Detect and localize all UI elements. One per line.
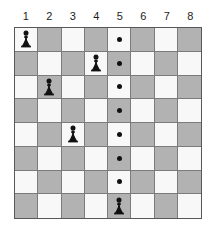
column-header-1: 1 [14,8,38,25]
board-cell-r6c2[interactable] [38,147,61,171]
column-header-3: 3 [61,8,85,25]
board-cell-r5c4[interactable] [85,123,108,147]
board-cell-r7c1[interactable] [15,171,38,195]
board-cell-r5c1[interactable] [15,123,38,147]
board-cell-r3c8[interactable] [178,76,201,100]
column-header-6: 6 [132,8,156,25]
board-cell-r2c1[interactable] [15,52,38,76]
dot-marker-icon [117,156,122,161]
board-cell-r2c5[interactable] [108,52,131,76]
board-cell-r6c8[interactable] [178,147,201,171]
board-cell-r5c6[interactable] [131,123,154,147]
board-cell-r5c7[interactable] [155,123,178,147]
board-cell-r3c1[interactable] [15,76,38,100]
board-cell-r6c6[interactable] [131,147,154,171]
board-cell-r1c2[interactable] [38,28,61,52]
column-header-7: 7 [155,8,179,25]
column-header-4: 4 [85,8,109,25]
board-cell-r8c1[interactable] [15,194,38,218]
board-cell-r6c5[interactable] [108,147,131,171]
board-cell-r6c1[interactable] [15,147,38,171]
column-header-2: 2 [38,8,62,25]
board-cell-r1c5[interactable] [108,28,131,52]
board-cell-r2c4[interactable] [85,52,108,76]
pawn-icon [66,125,80,143]
column-header-5: 5 [108,8,132,25]
board-cell-r4c6[interactable] [131,99,154,123]
dot-marker-icon [117,84,122,89]
chess-puzzle-figure: 1 2 3 4 5 6 7 8 [0,0,216,233]
pawn-icon [112,197,126,215]
dot-marker-icon [117,61,122,66]
board-cell-r1c7[interactable] [155,28,178,52]
board-cell-r3c3[interactable] [62,76,85,100]
board-cell-r5c2[interactable] [38,123,61,147]
board-cell-r7c5[interactable] [108,171,131,195]
board-cell-r7c6[interactable] [131,171,154,195]
pawn-icon [89,54,103,72]
board-cell-r1c6[interactable] [131,28,154,52]
board-cell-r8c8[interactable] [178,194,201,218]
board-cell-r2c8[interactable] [178,52,201,76]
board-cell-r8c3[interactable] [62,194,85,218]
dot-marker-icon [117,132,122,137]
board-cell-r2c3[interactable] [62,52,85,76]
board-cell-r4c8[interactable] [178,99,201,123]
board-cell-r6c7[interactable] [155,147,178,171]
board-cell-r8c2[interactable] [38,194,61,218]
board-cell-r4c7[interactable] [155,99,178,123]
board-cell-r8c4[interactable] [85,194,108,218]
board-cell-r5c3[interactable] [62,123,85,147]
chess-board[interactable] [14,27,202,219]
board-cell-r3c7[interactable] [155,76,178,100]
dot-marker-icon [117,108,122,113]
board-cell-r4c4[interactable] [85,99,108,123]
board-cell-r6c4[interactable] [85,147,108,171]
pawn-icon [42,78,56,96]
board-cell-r3c4[interactable] [85,76,108,100]
dot-marker-icon [117,37,122,42]
board-cell-r6c3[interactable] [62,147,85,171]
column-header-row: 1 2 3 4 5 6 7 8 [14,8,202,25]
board-cell-r2c2[interactable] [38,52,61,76]
pawn-icon [19,30,33,48]
board-cell-r7c3[interactable] [62,171,85,195]
column-header-8: 8 [179,8,203,25]
board-cell-r1c8[interactable] [178,28,201,52]
board-cell-r8c5[interactable] [108,194,131,218]
board-cell-r4c2[interactable] [38,99,61,123]
board-cell-r1c4[interactable] [85,28,108,52]
board-cell-r3c2[interactable] [38,76,61,100]
board-cell-r3c6[interactable] [131,76,154,100]
board-cell-r1c3[interactable] [62,28,85,52]
board-cell-r3c5[interactable] [108,76,131,100]
board-cell-r7c4[interactable] [85,171,108,195]
board-cell-r7c7[interactable] [155,171,178,195]
board-cell-r4c3[interactable] [62,99,85,123]
board-cell-r2c6[interactable] [131,52,154,76]
board-cell-r4c1[interactable] [15,99,38,123]
board-cell-r5c5[interactable] [108,123,131,147]
board-cell-r8c6[interactable] [131,194,154,218]
board-cell-r1c1[interactable] [15,28,38,52]
board-cell-r5c8[interactable] [178,123,201,147]
board-cell-r8c7[interactable] [155,194,178,218]
board-cell-r4c5[interactable] [108,99,131,123]
board-cell-r2c7[interactable] [155,52,178,76]
dot-marker-icon [117,179,122,184]
board-cell-r7c8[interactable] [178,171,201,195]
board-cell-r7c2[interactable] [38,171,61,195]
